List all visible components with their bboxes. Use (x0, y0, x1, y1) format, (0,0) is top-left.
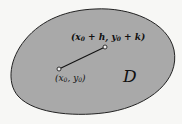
diagram-canvas (0, 0, 182, 124)
end-point-label: (x0 + h, y0 + k) (71, 33, 145, 42)
start-point-label: (x0, y0) (55, 74, 86, 83)
region-diagram: (x0 + h, y0 + k) (x0, y0) D (0, 0, 182, 124)
region-label: D (123, 68, 137, 85)
region-d-shape (11, 9, 175, 115)
end-point-marker (103, 45, 107, 49)
start-point-marker (57, 67, 61, 71)
